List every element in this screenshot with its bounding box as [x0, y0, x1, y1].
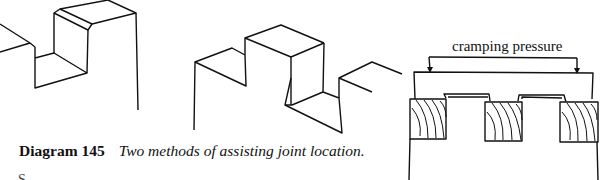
right-cramping-diagram: [409, 57, 598, 180]
body-text-fragment: S: [18, 172, 26, 180]
diagram-number: Diagram 145: [19, 142, 105, 159]
left-joint-diagram: [0, 0, 138, 110]
diagram-description: Two methods of assisting joint location.: [119, 142, 365, 159]
diagram-caption: Diagram 145Two methods of assisting join…: [19, 142, 365, 160]
middle-joint-diagram: [194, 25, 402, 133]
cramping-pressure-label: cramping pressure: [452, 38, 562, 55]
